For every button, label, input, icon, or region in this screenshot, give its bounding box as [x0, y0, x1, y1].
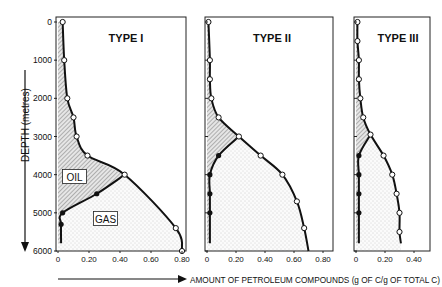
open-circle-point [236, 134, 241, 139]
y-tick-label: 4000 [33, 170, 52, 180]
open-circle-point [207, 77, 212, 82]
open-circle-point [74, 134, 79, 139]
x-tick-label: 0.60 [143, 255, 159, 264]
y-tick-label: 0 [47, 17, 52, 27]
open-circle-point [390, 172, 395, 177]
open-circle-point [216, 115, 221, 120]
open-circle-point [361, 115, 366, 120]
y-tick-label: 3000 [33, 132, 52, 142]
filled-circle-point [356, 191, 361, 196]
open-circle-point [397, 229, 402, 234]
open-circle-point [122, 172, 127, 177]
x-tick-label: 0.80 [174, 255, 190, 264]
x-tick-label: 0.20 [228, 255, 244, 264]
open-circle-point [62, 58, 67, 63]
open-circle-point [302, 226, 307, 231]
oil-label: OIL [66, 172, 83, 183]
x-tick-label: 0.40 [406, 255, 422, 264]
panel-type-3: TYPE III00.200.40 [354, 17, 430, 264]
open-circle-point [85, 153, 90, 158]
filled-circle-point [207, 172, 212, 177]
panel-type-1: TYPE I00.200.400.600.80OILGAS [56, 17, 191, 264]
y-tick-label: 2000 [33, 93, 52, 103]
y-tick-label: 6000 [33, 246, 52, 256]
x-tick-label: 0.80 [315, 255, 331, 264]
open-circle-point [280, 172, 285, 177]
filled-circle-point [216, 153, 221, 158]
chart-svg: TYPE I00.200.400.600.80OILGASTYPE II00.2… [0, 0, 442, 287]
panel-title: TYPE I [109, 32, 144, 44]
open-circle-point [368, 132, 373, 137]
open-circle-point [209, 96, 214, 101]
open-circle-point [258, 153, 263, 158]
x-tick-label: 0 [354, 255, 359, 264]
x-axis-label: AMOUNT OF PETROLEUM COMPOUNDS (g OF C/g … [190, 274, 440, 285]
x-tick-label: 0 [56, 255, 61, 264]
filled-circle-point [356, 153, 361, 158]
x-tick-label: 0.20 [81, 255, 97, 264]
x-tick-label: 0 [205, 255, 210, 264]
open-circle-point [207, 58, 212, 63]
filled-circle-point [207, 210, 212, 215]
panel-type-2: TYPE II00.200.400.600.80 [205, 17, 333, 264]
filled-circle-point [59, 222, 64, 227]
filled-circle-point [356, 210, 361, 215]
y-tick-label: 5000 [33, 208, 52, 218]
filled-circle-point [356, 172, 361, 177]
open-circle-point [358, 96, 363, 101]
filled-circle-point [60, 210, 65, 215]
open-circle-point [71, 115, 76, 120]
panel-title: TYPE II [253, 32, 291, 44]
open-circle-point [381, 153, 386, 158]
x-tick-label: 0.60 [286, 255, 302, 264]
open-circle-point [356, 58, 361, 63]
x-tick-label: 0.40 [257, 255, 273, 264]
open-circle-point [60, 19, 65, 24]
gas-label: GAS [95, 214, 116, 225]
panel-title: TYPE III [378, 32, 419, 44]
y-axis: 0100020003000400050006000 [33, 17, 57, 256]
open-circle-point [394, 191, 399, 196]
x-axis-arrow-head [178, 275, 187, 283]
open-circle-point [397, 210, 402, 215]
x-tick-label: 0.40 [112, 255, 128, 264]
y-axis-arrow-head [21, 242, 29, 252]
open-circle-point [355, 38, 360, 43]
x-tick-label: 0.20 [377, 255, 393, 264]
filled-circle-point [94, 191, 99, 196]
y-tick-label: 1000 [33, 55, 52, 65]
open-circle-point [173, 226, 178, 231]
filled-circle-point [207, 191, 212, 196]
open-circle-point [294, 199, 299, 204]
open-circle-point [65, 96, 70, 101]
open-circle-point [356, 77, 361, 82]
